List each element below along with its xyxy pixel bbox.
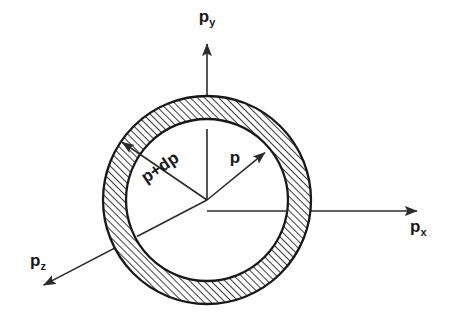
axis-label-px-base: p (410, 217, 420, 236)
axis-label-py-subscript: y (209, 16, 216, 28)
radius-label-p: p (230, 148, 240, 167)
diagram-canvas: py px pz p p+dp (0, 0, 457, 316)
axis-label-py-base: p (199, 7, 209, 26)
axis-label-pz-subscript: z (40, 260, 46, 272)
momentum-shell-annulus (0, 0, 457, 316)
axis-label-px-subscript: x (420, 226, 427, 238)
axis-label-pz-base: p (30, 251, 40, 270)
momentum-shell-diagram: py px pz p p+dp (0, 0, 457, 316)
